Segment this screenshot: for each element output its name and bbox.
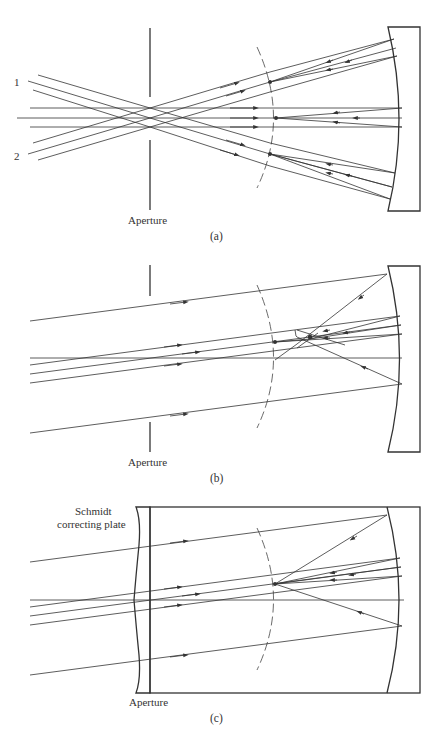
ray-bundle-2 bbox=[28, 39, 397, 160]
schmidt-camera-diagram: 1 2 Aperture (a) bbox=[0, 0, 443, 739]
focus-points bbox=[273, 582, 277, 586]
spherical-mirror bbox=[388, 27, 420, 211]
aperture-label: Aperture bbox=[128, 214, 167, 226]
panel-c: Schmidt correcting plate Aperture (c) bbox=[30, 505, 420, 725]
bundle-label-1: 1 bbox=[14, 76, 20, 88]
focal-surface bbox=[257, 528, 274, 670]
ray-bundle-1 bbox=[28, 75, 395, 199]
aperture-label: Aperture bbox=[129, 696, 168, 708]
marginal-rays bbox=[30, 274, 402, 433]
panel-caption-b: (b) bbox=[210, 472, 224, 485]
direction-arrows bbox=[164, 536, 364, 657]
marginal-rays bbox=[30, 515, 402, 675]
focal-surface bbox=[257, 47, 274, 188]
ray-bundle-center bbox=[17, 108, 402, 127]
focal-surface bbox=[257, 285, 274, 428]
paraxial-rays bbox=[30, 558, 404, 625]
panel-caption-a: (a) bbox=[210, 230, 223, 243]
plate-label-line1: Schmidt bbox=[75, 505, 112, 517]
panel-a: 1 2 Aperture (a) bbox=[14, 27, 420, 243]
spherical-mirror bbox=[388, 266, 420, 452]
panel-caption-c: (c) bbox=[210, 712, 223, 725]
bundle-label-2: 2 bbox=[14, 150, 20, 162]
plate-label-line2: correcting plate bbox=[57, 518, 126, 530]
paraxial-rays bbox=[30, 316, 402, 383]
panel-b: Aperture (b) bbox=[30, 265, 420, 485]
aperture-label: Aperture bbox=[128, 456, 167, 468]
